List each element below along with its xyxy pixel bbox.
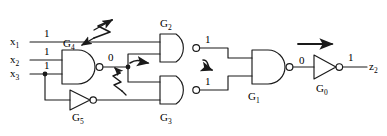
output-label-z2: z2 <box>369 61 378 75</box>
value-x1: 1 <box>44 28 50 39</box>
value-g1-output: 0 <box>299 55 305 66</box>
gate-label-g3: G3 <box>160 112 172 126</box>
gate-g0-body <box>314 55 336 79</box>
gate-g1-body <box>252 50 285 84</box>
input-label-x1: x1 <box>10 36 19 50</box>
circuit-diagram: x1 x2 x3 1 1 1 G4 G5 G2 G3 G1 G0 0 1 1 0… <box>0 0 387 136</box>
value-x3: 1 <box>44 60 50 71</box>
prop-arrow-g4-out <box>130 61 148 63</box>
gate-label-g0: G0 <box>316 83 328 97</box>
wire-g4-to-g3 <box>128 67 160 82</box>
gate-g2-body <box>160 34 183 62</box>
input-label-x3: x3 <box>10 68 19 82</box>
gate-g2-bubble <box>193 45 200 52</box>
gate-g4-body <box>62 50 95 84</box>
wire-x3-branch <box>45 74 70 100</box>
gate-g4-bubble <box>96 64 103 71</box>
fault-bolt-small-zigzag <box>113 73 122 91</box>
value-x2: 1 <box>44 46 50 57</box>
fault-bolt-small-head <box>115 68 120 73</box>
gate-label-g4: G4 <box>63 38 75 52</box>
value-g0-output: 1 <box>348 52 354 63</box>
junction-x3 <box>43 72 48 77</box>
gate-g3-bubble <box>193 87 200 94</box>
gate-g3-body <box>160 76 183 104</box>
value-g2-output: 1 <box>205 34 211 45</box>
value-g4-output: 0 <box>108 52 114 63</box>
junction-g4-out <box>126 65 131 70</box>
wire-g2-to-g1 <box>200 48 252 58</box>
gate-label-g5: G5 <box>72 112 84 126</box>
value-g3-output: 1 <box>205 76 211 87</box>
gate-label-g2: G2 <box>160 18 172 32</box>
gate-label-g1: G1 <box>248 91 260 105</box>
wire-g4-to-g2 <box>128 54 160 67</box>
gate-g5-body <box>70 90 90 110</box>
gate-g5-bubble <box>90 97 96 103</box>
prop-arrow-g2-out <box>203 60 212 70</box>
gate-g1-bubble <box>286 64 293 71</box>
circuit-schematic-svg <box>0 0 387 136</box>
input-label-x2: x2 <box>10 54 19 68</box>
gate-g0-bubble <box>336 64 343 71</box>
fault-bolt-small-tail <box>122 91 126 95</box>
